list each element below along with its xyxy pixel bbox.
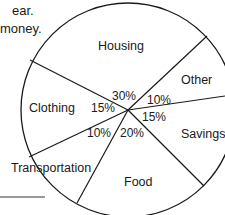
percent-transportation: 10% [87, 126, 111, 140]
label-savings: Savings [181, 127, 225, 141]
percent-other: 10% [147, 93, 171, 107]
percent-housing: 30% [112, 89, 136, 103]
label-housing: Housing [98, 39, 144, 53]
percent-clothing: 15% [91, 101, 115, 115]
label-other: Other [181, 73, 212, 87]
label-food: Food [124, 175, 153, 189]
label-transportation: Transportation [11, 161, 91, 175]
percent-food: 20% [120, 126, 144, 140]
percent-savings: 15% [142, 110, 166, 124]
label-clothing: Clothing [29, 101, 75, 115]
pie-chart: Housing Other Savings Food Transportatio… [0, 0, 225, 215]
